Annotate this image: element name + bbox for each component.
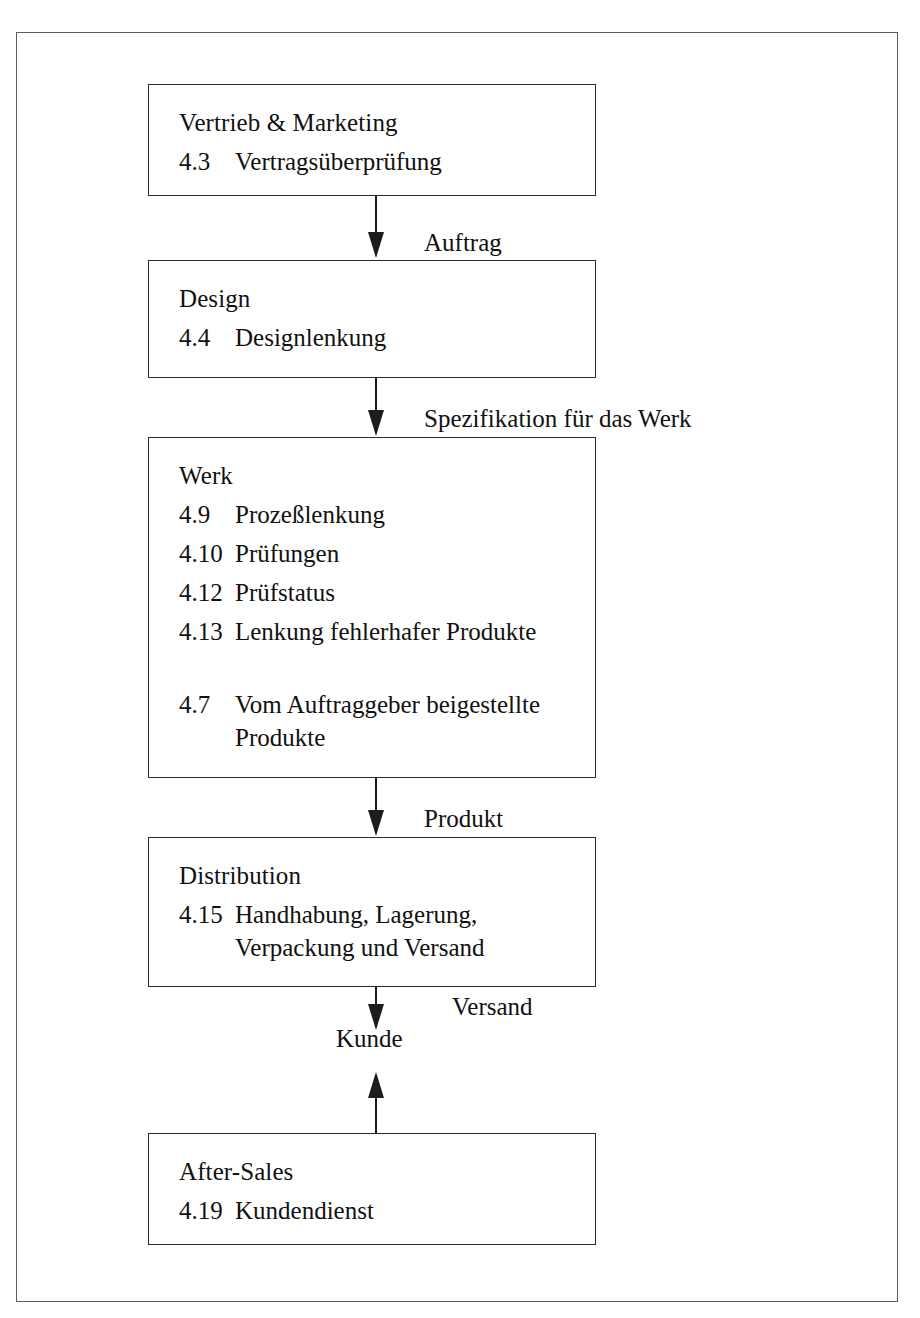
clause-item: 4.7 Vom Auftraggeber beigestellte Produk…	[179, 688, 581, 754]
clause-number: 4.19	[179, 1194, 235, 1227]
clause-item: 4.3 Vertragsüberprüfung	[179, 145, 581, 178]
clause-item: 4.12 Prüfstatus	[179, 576, 581, 609]
arrow-down-icon	[368, 232, 384, 258]
clause-item: 4.13 Lenkung fehlerhafer Produkte	[179, 615, 581, 648]
clause-item: 4.10 Prüfungen	[179, 537, 581, 570]
clause-item: 4.9 Prozeßlenkung	[179, 498, 581, 531]
node-body: Werk 4.9 Prozeßlenkung 4.10 Prüfungen 4.…	[149, 438, 595, 777]
edge-label-kunde: Kunde	[336, 1026, 403, 1051]
clause-text: Prüfstatus	[235, 576, 581, 609]
edge-label-produkt: Produkt	[424, 806, 503, 831]
clause-text: Prozeßlenkung	[235, 498, 581, 531]
node-title: After-Sales	[179, 1156, 581, 1188]
clause-list: 4.4 Designlenkung	[179, 321, 581, 354]
node-body: Design 4.4 Designlenkung	[149, 261, 595, 377]
clause-text: Vertragsüberprüfung	[235, 145, 581, 178]
node-body: Vertrieb & Marketing 4.3 Vertragsüberprü…	[149, 85, 595, 195]
clause-item: 4.19 Kundendienst	[179, 1194, 581, 1227]
clause-number: 4.10	[179, 537, 235, 570]
clause-list: 4.9 Prozeßlenkung 4.10 Prüfungen 4.12 Pr…	[179, 498, 581, 754]
flowchart-page: Vertrieb & Marketing 4.3 Vertragsüberprü…	[0, 0, 920, 1318]
edge-label-spezifikation: Spezifikation für das Werk	[424, 406, 692, 431]
clause-text: Lenkung fehlerhafer Produkte	[235, 615, 581, 648]
arrow-up-icon	[368, 1072, 384, 1098]
process-node-design: Design 4.4 Designlenkung	[148, 260, 596, 378]
arrow-down-icon	[368, 810, 384, 836]
clause-number: 4.15	[179, 898, 235, 931]
node-title: Design	[179, 283, 581, 315]
clause-number: 4.7	[179, 688, 235, 721]
clause-text: Handhabung, Lagerung, Verpackung und Ver…	[235, 898, 581, 964]
clause-text: Designlenkung	[235, 321, 581, 354]
node-title: Werk	[179, 460, 581, 492]
clause-text: Prüfungen	[235, 537, 581, 570]
node-title: Vertrieb & Marketing	[179, 107, 581, 139]
clause-list: 4.15 Handhabung, Lagerung, Verpackung un…	[179, 898, 581, 964]
node-body: After-Sales 4.19 Kundendienst	[149, 1134, 595, 1244]
clause-number: 4.3	[179, 145, 235, 178]
process-node-distribution: Distribution 4.15 Handhabung, Lagerung, …	[148, 837, 596, 987]
process-node-werk: Werk 4.9 Prozeßlenkung 4.10 Prüfungen 4.…	[148, 437, 596, 778]
process-node-after-sales: After-Sales 4.19 Kundendienst	[148, 1133, 596, 1245]
clause-list: 4.19 Kundendienst	[179, 1194, 581, 1227]
clause-list: 4.3 Vertragsüberprüfung	[179, 145, 581, 178]
node-body: Distribution 4.15 Handhabung, Lagerung, …	[149, 838, 595, 986]
clause-number: 4.13	[179, 615, 235, 648]
connector-line-vertrieb-to-design	[375, 196, 377, 236]
edge-label-versand: Versand	[452, 994, 533, 1019]
clause-item: 4.15 Handhabung, Lagerung, Verpackung un…	[179, 898, 581, 964]
clause-item: 4.4 Designlenkung	[179, 321, 581, 354]
clause-number: 4.4	[179, 321, 235, 354]
edge-label-auftrag: Auftrag	[424, 230, 502, 255]
clause-number: 4.12	[179, 576, 235, 609]
node-title: Distribution	[179, 860, 581, 892]
clause-text: Vom Auftraggeber beigestellte Produkte	[235, 688, 581, 754]
process-node-vertrieb-marketing: Vertrieb & Marketing 4.3 Vertragsüberprü…	[148, 84, 596, 196]
clause-number: 4.9	[179, 498, 235, 531]
arrow-down-icon	[368, 410, 384, 436]
clause-text: Kundendienst	[235, 1194, 581, 1227]
